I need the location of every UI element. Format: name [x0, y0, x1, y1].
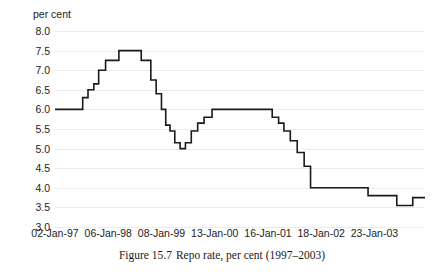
y-axis-tick-label: 6.5 [35, 84, 50, 95]
plot-area: 8.07.57.06.56.05.55.04.54.03.53.0 [55, 31, 425, 227]
caption-number: Figure 15.7 [119, 249, 172, 261]
x-axis-tick-label: 18-Jan-02 [298, 227, 345, 240]
figure-caption: Figure 15.7Repo rate, per cent (1997–200… [0, 248, 444, 262]
x-axis-tick-label: 23-Jan-03 [351, 227, 398, 240]
caption-text: Repo rate, per cent (1997–2003) [176, 249, 325, 261]
y-axis-tick-label: 6.0 [35, 104, 50, 115]
x-axis-tick-label: 06-Jan-98 [85, 227, 132, 240]
x-axis-tick-label: 13-Jan-00 [191, 227, 238, 240]
series-line-repo-rate [55, 51, 425, 206]
y-axis-tick-label: 5.0 [35, 143, 50, 154]
figure-repo-rate: per cent 8.07.57.06.56.05.55.04.54.03.53… [0, 0, 444, 273]
y-axis-tick-label: 7.5 [35, 45, 50, 56]
y-axis-unit-label: per cent [33, 8, 71, 20]
y-axis-tick-label: 4.5 [35, 163, 50, 174]
x-axis-tick-label: 08-Jan-99 [138, 227, 185, 240]
x-axis-tick-label: 02-Jan-97 [31, 227, 78, 240]
y-axis-tick-label: 4.0 [35, 182, 50, 193]
y-axis-tick-label: 7.0 [35, 65, 50, 76]
y-axis-tick-label: 3.5 [35, 202, 50, 213]
x-axis-tick-labels: 02-Jan-9706-Jan-9808-Jan-9913-Jan-0016-J… [0, 227, 444, 243]
y-axis-tick-label: 5.5 [35, 124, 50, 135]
y-axis-tick-label: 8.0 [35, 26, 50, 37]
series-repo-rate [55, 31, 425, 227]
x-axis-tick-label: 16-Jan-01 [244, 227, 291, 240]
